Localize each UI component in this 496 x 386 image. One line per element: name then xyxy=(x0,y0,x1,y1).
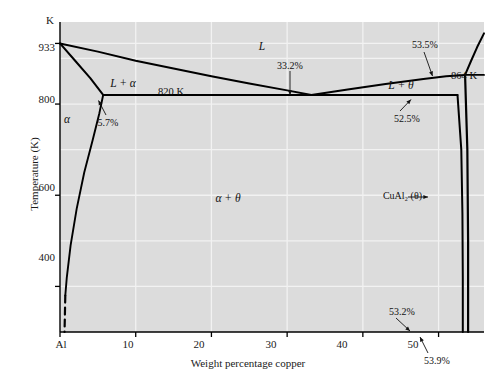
y-tick-label-400: 400 xyxy=(10,251,55,263)
y-tick-label-600: 600 xyxy=(10,181,55,193)
annotation-theta-eutectic-composition: 52.5% xyxy=(388,113,426,124)
x-tick-label-20: 20 xyxy=(186,338,212,350)
annotation-eutectic-composition: 33.2% xyxy=(271,60,309,71)
y-axis-title: Temperature (K) xyxy=(28,114,40,234)
annotation-alpha-solubility-limit: 5.7% xyxy=(91,117,125,128)
annotation-theta-upper-boundary: 53.9% xyxy=(415,355,459,366)
region-label-alpha: α xyxy=(58,113,76,125)
curve-alpha-solvus-dashed xyxy=(65,296,66,332)
annotation-peritectic-temperature: 864 K xyxy=(451,70,495,81)
annotation-theta-liquidus-composition: 53.5% xyxy=(406,39,444,50)
region-label-liquid-plus-alpha: L + α xyxy=(100,77,146,89)
x-tick-label-al: Al xyxy=(48,338,74,350)
annotation-eutectic-temperature: 820 K xyxy=(148,86,194,97)
y-axis-unit-label: K xyxy=(46,14,54,26)
phase-diagram-figure: K Temperature (K) Weight percentage copp… xyxy=(0,0,496,386)
x-tick-label-10: 10 xyxy=(115,338,141,350)
region-label-liquid: L xyxy=(250,40,274,52)
y-tick-label-800: 800 xyxy=(10,93,55,105)
region-label-alpha-plus-theta: α + θ xyxy=(205,192,251,204)
y-tick-label-933: 933 xyxy=(10,41,55,53)
region-label-liquid-plus-theta: L + θ xyxy=(378,79,424,91)
annotation-theta-phase-compound: CuAl₂ (θ) xyxy=(362,190,422,201)
x-tick-label-40: 40 xyxy=(329,338,355,350)
annotation-theta-lower-boundary: 53.2% xyxy=(383,306,421,317)
x-tick-label-30: 30 xyxy=(258,338,284,350)
x-tick-label-50: 50 xyxy=(400,338,426,350)
